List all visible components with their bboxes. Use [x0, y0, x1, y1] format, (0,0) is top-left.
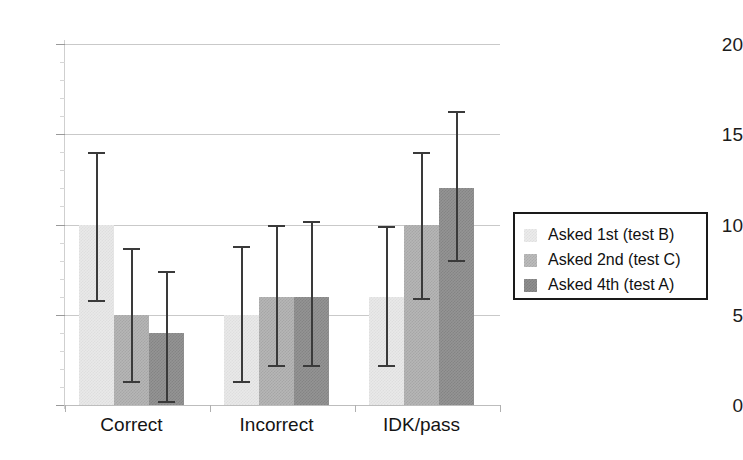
- x-tick: [210, 405, 211, 412]
- legend-label: Asked 2nd (test C): [548, 252, 681, 268]
- error-bar-cap-upper: [413, 152, 430, 154]
- y-axis-label-0: 0: [695, 396, 743, 415]
- legend: Asked 1st (test B)Asked 2nd (test C)Aske…: [513, 212, 708, 300]
- x-tick: [355, 405, 356, 412]
- legend-swatch-icon: [524, 229, 537, 242]
- error-bar-cap-upper: [303, 221, 320, 223]
- error-bar-cap-lower: [268, 365, 285, 367]
- error-bar-cap-upper: [158, 271, 175, 273]
- y-axis-label-20: 20: [695, 35, 743, 54]
- bar-chart-figure: 05101520 CorrectIncorrectIDK/pass Asked …: [0, 0, 743, 460]
- error-bar-cap-lower: [378, 365, 395, 367]
- error-bar-cap-upper: [378, 226, 395, 228]
- error-bar-stem: [456, 111, 458, 263]
- error-bar-cap-lower: [158, 401, 175, 403]
- x-tick: [500, 405, 501, 412]
- error-bar-cap-upper: [88, 152, 105, 154]
- error-bar-cap-upper: [268, 225, 285, 227]
- y-axis-label-5: 5: [695, 305, 743, 324]
- error-bar-cap-lower: [413, 298, 430, 300]
- legend-label: Asked 1st (test B): [548, 227, 674, 243]
- legend-swatch-icon: [524, 254, 537, 267]
- x-axis-label-incorrect: Incorrect: [240, 414, 314, 436]
- error-bar-stem: [421, 152, 423, 300]
- legend-item: Asked 4th (test A): [524, 272, 674, 298]
- legend-swatch-icon: [524, 279, 537, 292]
- gridline-20: [65, 44, 500, 45]
- legend-item: Asked 1st (test B): [524, 222, 674, 248]
- error-bar-cap-lower: [123, 381, 140, 383]
- error-bar-stem: [311, 221, 313, 367]
- x-tick: [65, 405, 66, 412]
- error-bar-stem: [241, 246, 243, 383]
- x-axis-line: [64, 405, 501, 406]
- x-axis-label-idk-pass: IDK/pass: [383, 414, 460, 436]
- error-bar-stem: [96, 152, 98, 302]
- x-axis-label-correct: Correct: [100, 414, 162, 436]
- error-bar-cap-lower: [88, 300, 105, 302]
- error-bar-stem: [166, 271, 168, 403]
- plot-area: [65, 44, 500, 405]
- error-bar-stem: [276, 225, 278, 368]
- error-bar-cap-upper: [123, 248, 140, 250]
- error-bar-cap-lower: [303, 365, 320, 367]
- error-bar-cap-lower: [233, 381, 250, 383]
- legend-item: Asked 2nd (test C): [524, 247, 681, 273]
- y-axis-label-15: 15: [695, 125, 743, 144]
- error-bar-cap-lower: [448, 260, 465, 262]
- legend-label: Asked 4th (test A): [548, 277, 674, 293]
- gridline-15: [65, 134, 500, 135]
- error-bar-cap-upper: [448, 111, 465, 113]
- error-bar-cap-upper: [233, 246, 250, 248]
- error-bar-stem: [131, 248, 133, 383]
- error-bar-stem: [386, 226, 388, 367]
